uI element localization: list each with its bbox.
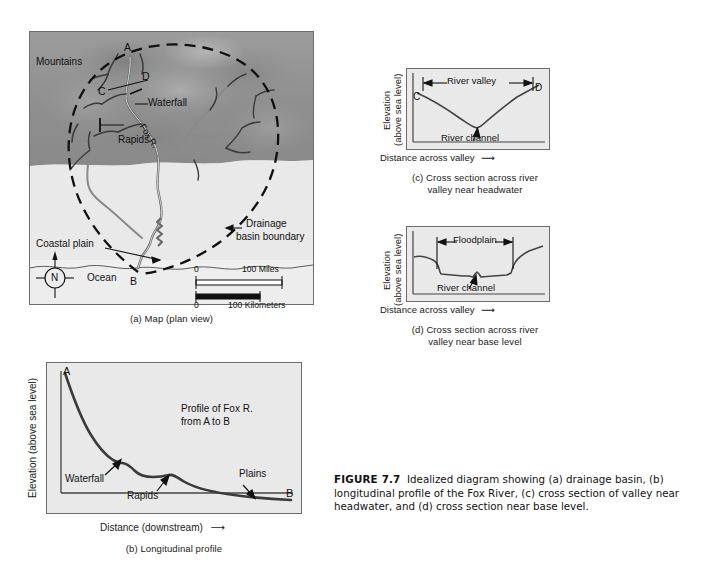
map-point-c: C xyxy=(98,85,106,97)
figure-caption: FIGURE 7.7 Idealized diagram showing (a)… xyxy=(334,473,700,514)
panel-b-chart: A B Waterfall Rapids Plains Profile of F… xyxy=(46,362,302,514)
panel-b-y-axis-label: Elevation (above sea level) xyxy=(27,370,41,506)
panel-b-point-b: B xyxy=(286,487,293,499)
panel-c-caption: (c) Cross section across river valley ne… xyxy=(375,172,575,196)
panel-b-annotation-line2: from A to B xyxy=(181,416,230,427)
panel-d-x-axis-text: Distance across valley xyxy=(380,304,475,315)
map-point-a: A xyxy=(124,41,131,53)
panel-b-annotation-line1: Profile of Fox R. xyxy=(181,403,253,414)
panel-c-x-axis-label: Distance across valley ⟶ xyxy=(380,152,495,163)
panel-c-y-axis-line1: Elevation xyxy=(381,90,392,129)
panel-b-x-axis-label: Distance (downstream) ⟶ xyxy=(100,522,225,533)
map-label-drainage-basin-boundary-line1: Drainage xyxy=(246,218,287,229)
compass-north-label: N xyxy=(51,272,58,283)
panel-c-river-channel-label: River channel xyxy=(441,132,499,143)
panel-c-caption-line2: valley near headwater xyxy=(375,184,575,196)
panel-d-chart: Floodplain River channel xyxy=(406,226,550,302)
panel-b-x-axis-arrow-icon: ⟶ xyxy=(211,522,225,533)
panel-a-map: Mountains Coastal plain Ocean Waterfall … xyxy=(29,31,314,305)
panel-d-caption-line1: (d) Cross section across river xyxy=(375,324,575,336)
map-point-d: D xyxy=(142,70,150,82)
panel-d-y-axis-line1: Elevation xyxy=(381,250,392,289)
panel-c-point-c: C xyxy=(413,91,420,102)
panel-d-caption-line2: valley near base level xyxy=(375,336,575,348)
panel-c-x-axis-text: Distance across valley xyxy=(380,152,475,163)
panel-b-caption: (b) Longitudinal profile xyxy=(46,543,302,555)
panel-b-x-axis-text: Distance (downstream) xyxy=(100,522,203,533)
panel-c-y-axis-label: Elevation (above sea level) xyxy=(381,62,407,158)
panel-d-y-axis-line2: (above sea level) xyxy=(392,229,403,311)
panel-d-x-axis-arrow-icon: ⟶ xyxy=(481,304,495,315)
panel-b-graphic xyxy=(47,363,301,513)
panel-c-point-d: D xyxy=(535,82,542,93)
panel-d-y-axis-label: Elevation (above sea level) xyxy=(381,229,407,311)
panel-c-y-axis-line2: (above sea level) xyxy=(392,62,403,158)
panel-d-river-channel-label: River channel xyxy=(437,282,495,293)
map-point-b: B xyxy=(130,275,137,287)
figure-number-label: FIGURE 7.7 xyxy=(334,473,400,485)
panel-d-caption: (d) Cross section across river valley ne… xyxy=(375,324,575,348)
scale-km-label: 100 Kilometers xyxy=(228,300,285,310)
map-label-drainage-basin-boundary-line2: basin boundary xyxy=(236,231,304,242)
panel-c-x-axis-arrow-icon: ⟶ xyxy=(481,152,495,163)
map-label-waterfall: Waterfall xyxy=(148,97,187,108)
map-label-mountains: Mountains xyxy=(36,56,82,67)
scale-miles-label: 100 Miles xyxy=(242,264,279,274)
map-label-coastal-plain: Coastal plain xyxy=(36,238,94,249)
panel-b-point-a: A xyxy=(63,365,70,377)
panel-b-plains-label: Plains xyxy=(239,468,266,479)
scale-km-zero: 0 xyxy=(194,300,199,310)
panel-c-chart: C D River valley River channel xyxy=(406,68,550,150)
panel-b-waterfall-label: Waterfall xyxy=(65,473,104,484)
panel-a-caption: (a) Map (plan view) xyxy=(29,313,314,325)
panel-d-x-axis-label: Distance across valley ⟶ xyxy=(380,304,495,315)
panel-d-floodplain-label: Floodplain xyxy=(453,234,497,245)
panel-c-caption-line1: (c) Cross section across river xyxy=(375,172,575,184)
map-label-ocean: Ocean xyxy=(87,272,116,283)
panel-b-rapids-label: Rapids xyxy=(127,490,158,501)
panel-c-river-valley-label: River valley xyxy=(447,75,496,86)
scale-miles-zero: 0 xyxy=(194,264,199,274)
